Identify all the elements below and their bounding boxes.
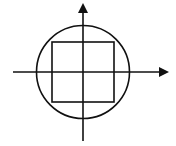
coordinate-diagram <box>0 0 176 146</box>
